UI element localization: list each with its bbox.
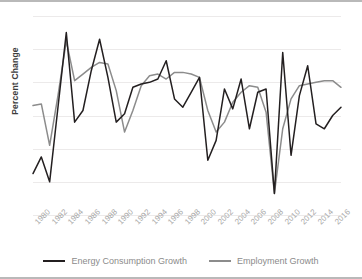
top-divider — [0, 0, 362, 2]
series-line — [33, 33, 341, 194]
legend-swatch-icon — [209, 260, 231, 263]
legend-item[interactable]: Employment Growth — [209, 256, 319, 266]
series-line — [33, 41, 341, 194]
legend-item[interactable]: Energy Consumption Growth — [43, 256, 187, 266]
chart-legend: Energy Consumption GrowthEmployment Grow… — [0, 256, 362, 266]
x-axis-tick-labels: 1980198219841986198819901992199419961998… — [33, 220, 341, 260]
series-lines — [33, 16, 341, 215]
legend-swatch-icon — [43, 260, 65, 263]
plot-area: 6420-2-4-6 — [33, 16, 341, 215]
legend-label: Energy Consumption Growth — [71, 256, 187, 266]
y-axis-title: Percent Change — [10, 21, 20, 141]
chart-figure: Percent Change 6420-2-4-6 19801982198419… — [0, 0, 362, 279]
legend-label: Employment Growth — [237, 256, 319, 266]
